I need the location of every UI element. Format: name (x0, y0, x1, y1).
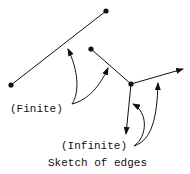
node-d (128, 81, 133, 86)
finite-edge-2 (91, 49, 131, 84)
finite-label: (Finite) (10, 104, 63, 115)
node-b (8, 82, 13, 87)
infinite-pointer-arrow-1 (134, 83, 158, 146)
infinite-edge-ray-down (126, 84, 131, 134)
node-c (88, 46, 93, 51)
diagram-caption: Sketch of edges (48, 158, 147, 169)
infinite-label: (Infinite) (61, 141, 127, 152)
edges-sketch-diagram: (Finite) (Infinite) Sketch of edges (0, 0, 190, 174)
node-a (103, 8, 108, 13)
infinite-edge-ray-right (131, 69, 183, 84)
finite-pointer-arrow-1 (68, 49, 77, 104)
infinite-pointer-arrow-2 (133, 104, 144, 146)
